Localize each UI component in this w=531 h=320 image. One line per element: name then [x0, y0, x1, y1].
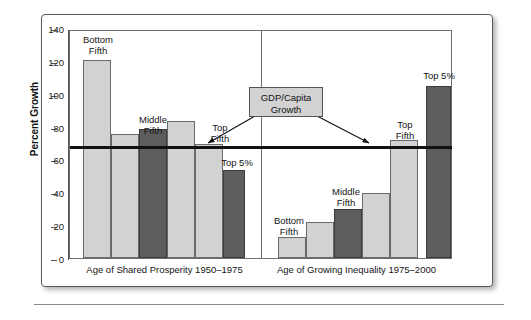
y-tick-label-120: 120 [34, 58, 64, 67]
label-left-bottom-fifth-line2: Fifth [89, 45, 107, 56]
label-right-bottom-fifth-line1: Bottom [274, 215, 304, 226]
y-tick-label-100: 100 [34, 91, 64, 100]
group-divider-line [261, 31, 262, 258]
bar-left-bottom-fifth [83, 60, 111, 258]
y-tick-label-140: 140 [34, 25, 64, 34]
y-tick-label-60: 60 [34, 156, 64, 165]
bar-right-bottom-fifth [278, 237, 306, 258]
x-group-label-right: Age of Growing Inequality 1975–2000 [261, 264, 452, 275]
y-tick-label-20: 20 [34, 222, 64, 231]
label-right-top-fifth-line2: Fifth [396, 130, 414, 141]
label-left-bottom-fifth-line1: Bottom [83, 34, 113, 45]
label-left-bottom-fifth: Bottom Fifth [75, 34, 121, 56]
x-group-label-left: Age of Shared Prosperity 1950–1975 [69, 264, 260, 275]
label-right-bottom-fifth-line2: Fifth [280, 226, 298, 237]
label-right-bottom-fifth: Bottom Fifth [266, 215, 312, 237]
bar-right-middle-fifth [334, 209, 362, 258]
label-left-top-fifth-line2: Fifth [211, 133, 229, 144]
reference-line-left-group [70, 146, 261, 149]
label-left-top-five-percent: Top 5% [215, 157, 259, 168]
label-left-top-fifth-line1: Top [212, 122, 227, 133]
label-right-top-five-percent: Top 5% [417, 70, 461, 81]
y-axis-tick-labels: 140 120 100 80 60 40 20 0 [30, 15, 64, 286]
label-right-middle-fifth-line1: Middle [332, 186, 360, 197]
bar-right-top-fifth [390, 140, 418, 258]
bottom-rule [34, 304, 504, 305]
y-tick-label-40: 40 [34, 189, 64, 198]
label-right-top-fifth-line1: Top [397, 119, 412, 130]
bar-left-second-fifth [111, 134, 139, 258]
chart-card: Percent Growth 140 120 100 80 60 40 20 0 [41, 14, 493, 287]
y-tick-label-80: 80 [34, 124, 64, 133]
label-right-middle-fifth-line2: Fifth [337, 197, 355, 208]
bar-right-top-five-percent [426, 86, 451, 258]
label-right-top-fifth: Top Fifth [385, 119, 425, 141]
label-left-middle-fifth-line2: Fifth [144, 125, 162, 136]
callout-line1: GDP/Capita [256, 92, 316, 104]
label-right-middle-fifth: Middle Fifth [323, 186, 369, 208]
label-left-middle-fifth: Middle Fifth [130, 114, 176, 136]
reference-line-right-group [261, 146, 452, 149]
chart-screenshot: Percent Growth 140 120 100 80 60 40 20 0 [0, 0, 531, 320]
plot-area: Bottom Fifth Middle Fifth Top Fifth Top … [69, 30, 452, 259]
label-left-top-fifth: Top Fifth [200, 122, 240, 144]
callout-line2: Growth [256, 104, 316, 116]
y-tick-label-0: 0 [34, 255, 64, 264]
gdp-capita-growth-callout: GDP/Capita Growth [249, 87, 323, 117]
bar-left-fourth-fifth [167, 121, 195, 258]
label-left-middle-fifth-line1: Middle [139, 114, 167, 125]
bar-left-top-five-percent [223, 170, 245, 258]
